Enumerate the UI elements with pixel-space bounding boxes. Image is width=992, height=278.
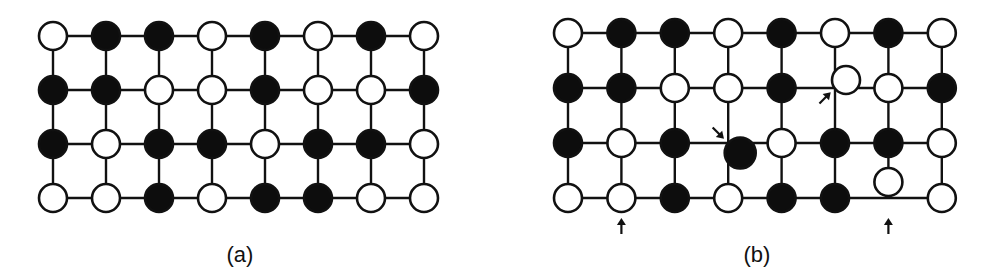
white-node	[874, 74, 902, 102]
displaced-white-node	[832, 66, 860, 94]
black-node	[554, 74, 582, 102]
black-node	[198, 130, 226, 158]
black-node	[661, 129, 689, 157]
black-node	[874, 129, 902, 157]
white-node	[661, 74, 689, 102]
white-node	[928, 184, 956, 212]
lattice-figure: (a) (b)	[0, 0, 992, 278]
white-node	[92, 184, 120, 212]
black-node	[768, 74, 796, 102]
black-node	[607, 19, 635, 47]
arrow-icon	[713, 127, 724, 138]
black-node	[661, 184, 689, 212]
panel-a	[39, 22, 438, 212]
panel-b	[554, 19, 956, 234]
black-node	[821, 129, 849, 157]
white-node	[304, 76, 332, 104]
white-node	[928, 19, 956, 47]
arrow-icon	[884, 218, 893, 234]
white-node	[714, 74, 742, 102]
black-node	[768, 19, 796, 47]
arrow-icon	[819, 92, 830, 103]
black-node	[410, 76, 438, 104]
white-node	[251, 130, 279, 158]
white-node	[607, 184, 635, 212]
white-node	[357, 184, 385, 212]
white-node	[198, 184, 226, 212]
black-node	[874, 19, 902, 47]
black-node	[92, 22, 120, 50]
black-node	[251, 76, 279, 104]
white-node	[714, 19, 742, 47]
white-node	[554, 184, 582, 212]
black-node	[92, 76, 120, 104]
arrow-icon	[617, 218, 626, 234]
black-node	[251, 184, 279, 212]
white-node	[821, 19, 849, 47]
black-node	[39, 76, 67, 104]
displaced-white-node	[874, 168, 902, 196]
white-node	[928, 129, 956, 157]
black-node	[304, 184, 332, 212]
white-node	[410, 22, 438, 50]
white-node	[410, 184, 438, 212]
black-node	[251, 22, 279, 50]
white-node	[714, 184, 742, 212]
white-node	[357, 76, 385, 104]
black-node	[145, 184, 173, 212]
black-node	[145, 130, 173, 158]
white-node	[198, 76, 226, 104]
black-node	[661, 19, 689, 47]
white-node	[304, 22, 332, 50]
black-node	[39, 130, 67, 158]
white-node	[554, 19, 582, 47]
white-node	[768, 129, 796, 157]
white-node	[198, 22, 226, 50]
black-node	[607, 74, 635, 102]
white-node	[410, 130, 438, 158]
black-node	[357, 22, 385, 50]
white-node	[607, 129, 635, 157]
white-node	[39, 184, 67, 212]
white-node	[92, 130, 120, 158]
black-node	[357, 130, 385, 158]
white-node	[145, 76, 173, 104]
black-node	[821, 184, 849, 212]
black-node	[554, 129, 582, 157]
displaced-black-node	[725, 138, 756, 169]
panel-a-label: (a)	[227, 242, 254, 267]
white-node	[39, 22, 67, 50]
black-node	[145, 22, 173, 50]
black-node	[304, 130, 332, 158]
black-node	[768, 184, 796, 212]
black-node	[928, 74, 956, 102]
panel-b-label: (b)	[744, 242, 771, 267]
